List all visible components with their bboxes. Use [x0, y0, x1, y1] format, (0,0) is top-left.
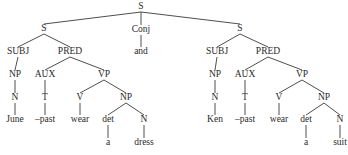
- tree-node-n2: N: [212, 93, 219, 103]
- edge-vp2-v2: [279, 80, 302, 93]
- tree-node-n1: N: [12, 93, 19, 103]
- edge-vp1-np1b: [104, 80, 126, 93]
- edge-pred1-aux1: [45, 57, 70, 70]
- tree-node-vp2: VP: [296, 70, 308, 80]
- edge-subj2-np2: [215, 57, 217, 70]
- edge-subj1-np1: [15, 57, 18, 70]
- edge-s2-subj2: [217, 34, 240, 47]
- edge-root-s2: [141, 12, 240, 24]
- edge-np2b-det2: [306, 103, 324, 115]
- tree-node-det1: det: [102, 115, 114, 125]
- tree-node-v1: V: [77, 93, 84, 103]
- tree-node-conj: Conj: [132, 25, 150, 35]
- tree-node-s2: S: [237, 24, 242, 34]
- edge-np1b-nn1: [126, 103, 144, 115]
- tree-node-subj1: SUBJ: [7, 47, 29, 57]
- edge-np2b-nn2: [324, 103, 340, 115]
- edge-np1b-det1: [108, 103, 126, 115]
- tree-node-pred1: PRED: [58, 47, 82, 57]
- tree-node-nn2: N: [337, 115, 344, 125]
- edge-pred1-vp1: [70, 57, 104, 70]
- tree-node-subj2: SUBJ: [206, 47, 228, 57]
- tree-node-a1: a: [106, 138, 110, 148]
- tree-node-and: and: [134, 47, 148, 57]
- tree-node-root: S: [138, 2, 143, 12]
- tree-node-aux2: AUX: [235, 70, 256, 80]
- tree-node-np2: NP: [209, 70, 221, 80]
- tree-node-s1: S: [41, 24, 46, 34]
- edge-pred2-aux2: [245, 57, 268, 70]
- edge-vp1-v1: [80, 80, 104, 93]
- tree-node-t2: T: [242, 93, 248, 103]
- edge-root-s1: [44, 12, 141, 24]
- tree-node-nn1: N: [141, 115, 148, 125]
- tree-node-vp1: VP: [98, 70, 110, 80]
- edge-s2-pred2: [240, 34, 268, 47]
- tree-node-t1: T: [42, 93, 48, 103]
- tree-node-ken: Ken: [207, 115, 223, 125]
- tree-node-pred2: PRED: [256, 47, 280, 57]
- edge-s1-pred1: [44, 34, 70, 47]
- tree-node-suit: suit: [333, 138, 347, 148]
- edge-pred2-vp2: [268, 57, 302, 70]
- edge-vp2-np2b: [302, 80, 324, 93]
- tree-node-wear2: wear: [270, 115, 288, 125]
- tree-node-v2: V: [276, 93, 283, 103]
- edge-s1-subj1: [18, 34, 44, 47]
- tree-node-det2: det: [300, 115, 312, 125]
- tree-node-past1: –past: [35, 115, 55, 125]
- tree-node-np1b: NP: [120, 93, 132, 103]
- tree-node-dress: dress: [134, 138, 154, 148]
- tree-node-aux1: AUX: [35, 70, 56, 80]
- tree-node-june: June: [6, 115, 23, 125]
- tree-node-past2: –past: [235, 115, 255, 125]
- tree-node-wear1: wear: [71, 115, 89, 125]
- tree-node-np1: NP: [9, 70, 21, 80]
- tree-node-a2: a: [304, 138, 308, 148]
- tree-node-np2b: NP: [318, 93, 330, 103]
